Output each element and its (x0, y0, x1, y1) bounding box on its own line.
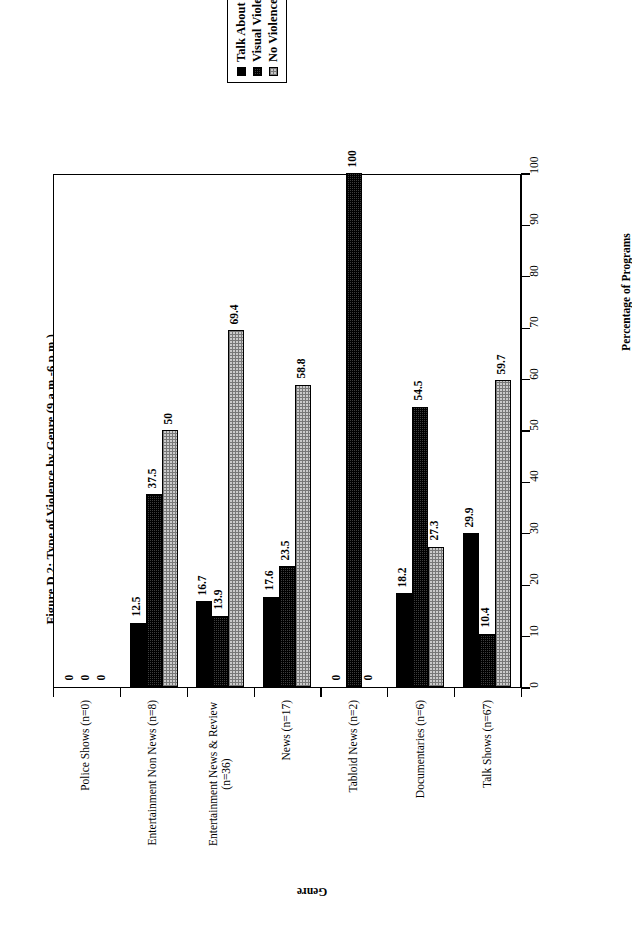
bar-value-label: 0 (96, 673, 108, 681)
bar-group: 12.537.550 (121, 175, 188, 687)
bar-value-label: 54.5 (413, 380, 425, 402)
value-axis-tick-label: 90 (529, 214, 541, 226)
category-label-cell: Documentaries (n=6) (387, 700, 454, 875)
bar: 100 (346, 173, 362, 687)
value-axis-tick-label: 70 (529, 316, 541, 328)
value-axis-tick-label: 40 (529, 471, 541, 483)
bar-value-label: 13.9 (213, 588, 225, 610)
category-axis-label: Documentaries (n=6) (414, 700, 427, 798)
bar-value-label: 0 (80, 673, 92, 681)
value-axis-tick-label: 0 (529, 682, 541, 688)
category-axis-tick (387, 688, 388, 697)
bar-group: 17.623.558.8 (254, 175, 321, 687)
category-axis-tick (521, 688, 522, 697)
bar: 12.5 (130, 623, 146, 687)
bar-value-label: 69.4 (229, 303, 241, 325)
bar-value-label: 0 (363, 673, 375, 681)
category-axis-ticks (53, 688, 521, 689)
bar-group: 01000 (320, 175, 387, 687)
legend-label: Talk About Violence (234, 0, 249, 62)
bar-value-label: 100 (347, 149, 359, 168)
bar: 23.5 (279, 566, 295, 687)
value-axis-tick-label: 100 (529, 157, 541, 174)
category-axis-label: Entertainment News & Review(n=36) (207, 700, 233, 848)
category-axis-label: Tabloid News (n=2) (347, 700, 360, 793)
category-axis-tick (187, 688, 188, 697)
value-axis-title: Percentage of Programs (620, 222, 632, 362)
value-axis-tick (521, 225, 530, 226)
category-label-cell: Entertainment News & Review(n=36) (187, 700, 254, 875)
bar-value-label: 0 (64, 673, 76, 681)
bar-value-label: 17.6 (264, 569, 276, 591)
bar-value-label: 29.9 (464, 506, 476, 528)
legend-item-visual-violence: Visual Violence (249, 0, 265, 76)
legend-swatch-icon (269, 67, 278, 76)
bar: 10.4 (479, 634, 495, 687)
category-label-cell: Tabloid News (n=2) (320, 700, 387, 875)
legend-swatch-icon (237, 67, 246, 76)
category-axis-tick (254, 688, 255, 697)
chart-legend: Talk About Violence Visual Violence No V… (227, 0, 287, 83)
legend-label: Visual Violence (250, 0, 265, 62)
bar-value-label: 10.4 (480, 606, 492, 628)
category-axis-tick (120, 688, 121, 697)
bar-value-label: 27.3 (429, 520, 441, 542)
value-axis-tick (521, 482, 530, 483)
bar: 54.5 (412, 407, 428, 687)
category-axis-label: Police Shows (n=0) (80, 700, 93, 791)
category-axis-tick (454, 688, 455, 697)
bar: 59.7 (495, 380, 511, 687)
category-label-cell: News (n=17) (254, 700, 321, 875)
bar: 18.2 (396, 593, 412, 687)
legend-item-no-violence: No Violence (265, 0, 281, 76)
bar-value-label: 12.5 (131, 596, 143, 618)
legend-label: No Violence (266, 0, 281, 62)
category-label-cell: Talk Shows (n=67) (454, 700, 521, 875)
bar-groups: 00012.537.55016.713.969.417.623.558.8010… (54, 175, 520, 687)
value-axis-tick-label: 30 (529, 522, 541, 534)
value-axis-tick (521, 585, 530, 586)
bar-value-label: 16.7 (197, 574, 209, 596)
bar-value-label: 23.5 (280, 539, 292, 561)
value-axis-tick-label: 50 (529, 419, 541, 431)
bar: 16.7 (196, 601, 212, 687)
bar-value-label: 0 (331, 673, 343, 681)
category-axis-label: Entertainment Non News (n=8) (147, 700, 160, 845)
bar-group: 16.713.969.4 (187, 175, 254, 687)
bar-group: 000 (54, 175, 121, 687)
value-axis-tick (521, 328, 530, 329)
legend-item-talk-about-violence: Talk About Violence (233, 0, 249, 76)
bar-value-label: 58.8 (296, 358, 308, 380)
category-axis-tick (53, 688, 54, 697)
category-axis-labels: Police Shows (n=0)Entertainment Non News… (53, 700, 521, 875)
bar: 13.9 (212, 616, 228, 687)
bar: 17.6 (263, 597, 279, 687)
value-axis: 0102030405060708090100 (521, 174, 522, 688)
category-axis-label: News (n=17) (280, 700, 293, 760)
bar: 27.3 (428, 547, 444, 687)
bar-group: 18.254.527.3 (387, 175, 454, 687)
bar: 50 (162, 430, 178, 687)
plot-area: 00012.537.55016.713.969.417.623.558.8010… (53, 174, 521, 688)
bar-group: 29.910.459.7 (453, 175, 520, 687)
bar: 58.8 (295, 385, 311, 687)
category-axis-title: Genre (262, 886, 362, 898)
value-axis-tick-label: 80 (529, 265, 541, 277)
bar: 69.4 (228, 330, 244, 687)
bar-value-label: 37.5 (147, 467, 159, 489)
bar-value-label: 50 (163, 412, 175, 426)
value-axis-tick-label: 10 (529, 625, 541, 637)
bar-value-label: 18.2 (397, 566, 409, 588)
category-label-cell: Entertainment Non News (n=8) (120, 700, 187, 875)
value-axis-tick-label: 60 (529, 368, 541, 380)
category-axis-tick (320, 688, 321, 697)
bar: 29.9 (463, 533, 479, 687)
category-label-cell: Police Shows (n=0) (53, 700, 120, 875)
category-axis-label: Talk Shows (n=67) (481, 700, 494, 788)
value-axis-tick-label: 20 (529, 573, 541, 585)
bar-value-label: 59.7 (496, 353, 508, 375)
bar: 37.5 (146, 494, 162, 687)
legend-swatch-icon (253, 67, 262, 76)
